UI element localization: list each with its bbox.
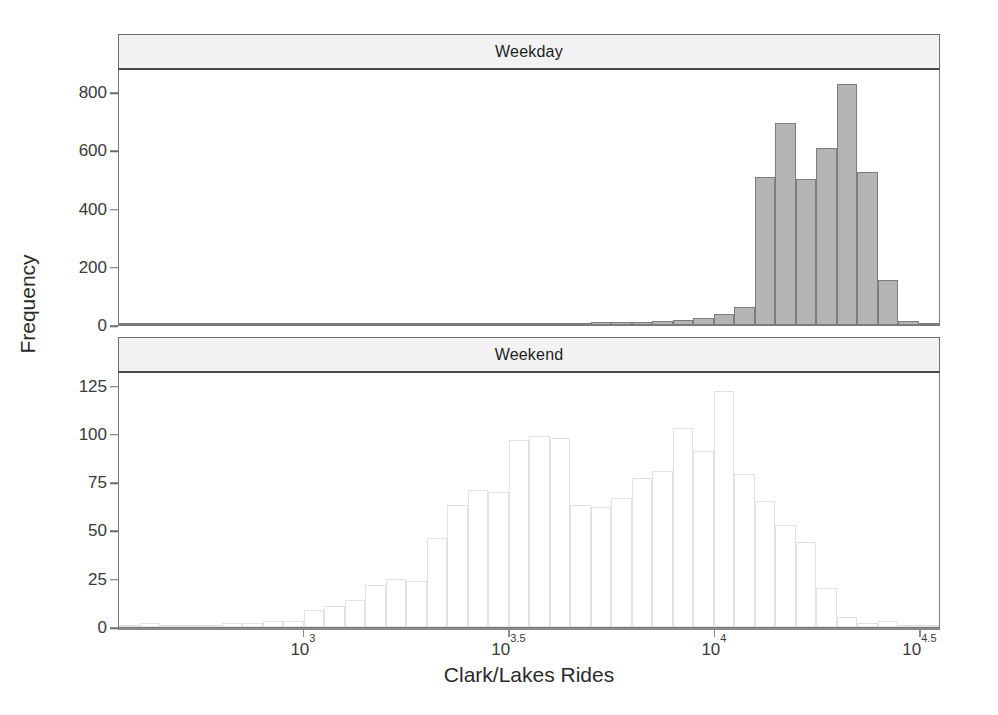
- y-tick-mark: [110, 209, 118, 211]
- histogram-bar: [201, 625, 222, 627]
- y-tick-mark: [110, 325, 118, 327]
- histogram-bar: [201, 323, 222, 325]
- histogram-bar: [263, 323, 284, 325]
- panel-weekday: Weekday 0200400600800: [118, 34, 940, 326]
- histogram-bar: [796, 542, 817, 627]
- histogram-bar: [816, 148, 837, 325]
- histogram-bar: [878, 280, 899, 325]
- histogram-bar: [919, 323, 940, 325]
- histogram-bar: [693, 451, 714, 627]
- histogram-bar: [755, 501, 776, 627]
- strip-label-weekday: Weekday: [118, 34, 940, 70]
- x-tick-label: 104: [701, 638, 726, 660]
- histogram-bar: [345, 600, 366, 627]
- y-tick-mark: [110, 579, 118, 581]
- histogram-bar: [365, 585, 386, 628]
- bar-series-weekday: [119, 70, 939, 325]
- histogram-bar: [816, 588, 837, 627]
- histogram-bar: [837, 84, 858, 325]
- histogram-bar: [140, 323, 161, 325]
- x-axis-line: [118, 628, 940, 630]
- histogram-bar: [406, 581, 427, 627]
- bar-series-weekend: [119, 373, 939, 627]
- histogram-bar: [898, 321, 919, 325]
- histogram-bar: [714, 314, 735, 325]
- histogram-bar: [119, 323, 140, 325]
- histogram-bar: [898, 625, 919, 627]
- histogram-bar: [632, 478, 653, 627]
- histogram-bar: [529, 323, 550, 325]
- histogram-bar: [775, 525, 796, 627]
- histogram-bar: [447, 323, 468, 325]
- histogram-bar: [181, 323, 202, 325]
- y-tick-mark: [110, 434, 118, 436]
- histogram-bar: [427, 538, 448, 627]
- plot-area-weekday: [118, 70, 940, 326]
- y-tick-mark: [110, 531, 118, 533]
- histogram-bar: [345, 323, 366, 325]
- histogram-bar: [509, 440, 530, 627]
- histogram-bar: [160, 323, 181, 325]
- histogram-bar: [242, 623, 263, 627]
- histogram-bar: [673, 320, 694, 325]
- panel-weekend: Weekend 0255075100125: [118, 337, 940, 628]
- histogram-bar: [857, 172, 878, 325]
- histogram-bar: [160, 625, 181, 627]
- y-tick-mark: [110, 627, 118, 629]
- histogram-bar: [570, 505, 591, 627]
- histogram-bar: [714, 391, 735, 627]
- histogram-bar: [324, 323, 345, 325]
- histogram-bar: [119, 625, 140, 627]
- histogram-bar: [447, 505, 468, 627]
- histogram-bar: [263, 621, 284, 627]
- x-tick-label: 104.5: [902, 638, 936, 660]
- histogram-bar: [652, 471, 673, 627]
- x-axis-title: Clark/Lakes Rides: [118, 663, 940, 687]
- histogram-bar: [734, 307, 755, 325]
- histogram-bar: [837, 617, 858, 627]
- histogram-bar: [632, 322, 653, 325]
- histogram-bar: [222, 623, 243, 627]
- histogram-bar: [919, 625, 940, 627]
- histogram-bar: [304, 323, 325, 325]
- histogram-bar: [550, 323, 571, 325]
- x-tick-mark: [714, 628, 716, 637]
- histogram-bar: [386, 323, 407, 325]
- histogram-bar: [283, 621, 304, 627]
- histogram-bar: [591, 322, 612, 325]
- y-tick-mark: [110, 386, 118, 388]
- histogram-bar: [693, 318, 714, 325]
- y-tick-mark: [110, 482, 118, 484]
- histogram-bar: [468, 490, 489, 627]
- histogram-bar: [529, 436, 550, 627]
- histogram-bar: [550, 438, 571, 627]
- histogram-bar: [365, 323, 386, 325]
- histogram-bar: [570, 323, 591, 325]
- y-tick-mark: [110, 93, 118, 95]
- histogram-bar: [386, 579, 407, 627]
- plot-area-weekend: [118, 373, 940, 628]
- x-tick-mark: [303, 628, 305, 637]
- histogram-bar: [755, 177, 776, 325]
- histogram-bar: [488, 492, 509, 627]
- x-tick-label: 103.5: [491, 638, 525, 660]
- histogram-figure: Frequency Weekday 0200400600800 Weekend …: [0, 0, 998, 715]
- y-axis-title: Frequency: [16, 224, 40, 384]
- histogram-bar: [652, 321, 673, 325]
- histogram-bar: [857, 623, 878, 627]
- strip-text-weekday: Weekday: [495, 43, 563, 61]
- histogram-bar: [468, 323, 489, 325]
- strip-label-weekend: Weekend: [118, 337, 940, 373]
- histogram-bar: [673, 428, 694, 627]
- histogram-bar: [304, 610, 325, 627]
- histogram-bar: [222, 323, 243, 325]
- strip-text-weekend: Weekend: [495, 346, 564, 364]
- histogram-bar: [734, 474, 755, 627]
- histogram-bar: [591, 507, 612, 627]
- histogram-bar: [488, 323, 509, 325]
- x-tick-label: 103: [290, 638, 315, 660]
- y-tick-mark: [110, 267, 118, 269]
- histogram-bar: [406, 323, 427, 325]
- histogram-bar: [775, 123, 796, 325]
- histogram-bar: [242, 323, 263, 325]
